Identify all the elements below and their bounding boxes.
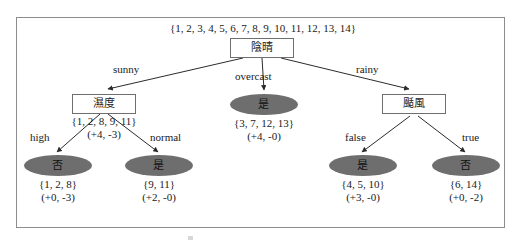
root-set: {1, 2, 3, 4, 5, 6, 7, 8, 9, 10, 11, 12, …	[143, 22, 383, 35]
leaf-normal-yes[interactable]: 是	[125, 155, 193, 176]
scan-artifact	[188, 236, 193, 240]
edge-label-normal: normal	[150, 131, 181, 143]
leaf-true-set: {6, 14}	[406, 178, 523, 191]
node-humidity-set: {1, 2, 8, 9, 11}	[44, 115, 164, 128]
leaf-normal-counts: (+2, -0)	[99, 191, 219, 204]
leaf-true-counts: (+0, -2)	[406, 191, 523, 204]
leaf-overcast-set: {3, 7, 12, 13}	[204, 117, 324, 130]
node-humidity[interactable]: 濕度	[72, 94, 136, 114]
node-humidity-counts: (+4, -3)	[44, 128, 164, 141]
edge-label-sunny: sunny	[113, 63, 139, 75]
leaf-false-counts: (+3, -0)	[303, 191, 423, 204]
edge-false	[362, 116, 410, 152]
edge-label-rainy: rainy	[356, 63, 379, 75]
leaf-high-no[interactable]: 否	[24, 155, 92, 176]
edge-label-false: false	[345, 131, 366, 143]
node-outlook[interactable]: 陰晴	[230, 38, 294, 58]
leaf-overcast-counts: (+4, -0)	[204, 130, 324, 143]
leaf-false-yes[interactable]: 是	[329, 155, 397, 176]
leaf-true-no[interactable]: 否	[432, 155, 500, 176]
edge-label-overcast: overcast	[235, 70, 272, 82]
diagram-canvas: {1, 2, 3, 4, 5, 6, 7, 8, 9, 10, 11, 12, …	[0, 0, 523, 244]
leaf-normal-set: {9, 11}	[99, 178, 219, 191]
node-windy[interactable]: 颳風	[382, 94, 446, 114]
leaf-overcast-yes[interactable]: 是	[230, 94, 298, 115]
edge-true	[418, 116, 465, 152]
edge-label-true: true	[462, 131, 479, 143]
edge-label-high: high	[30, 131, 50, 143]
edge-rainy	[281, 58, 409, 89]
leaf-false-set: {4, 5, 10}	[303, 178, 423, 191]
